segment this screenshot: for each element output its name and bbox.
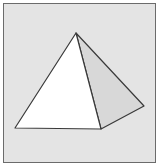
pyramid-diagram xyxy=(0,0,162,168)
